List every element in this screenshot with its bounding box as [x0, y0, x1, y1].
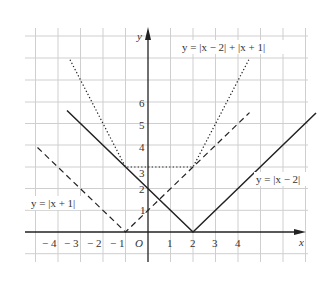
x-tick: 1 [167, 237, 173, 249]
y-tick: 5 [139, 119, 145, 131]
x-tick: 4 [235, 237, 241, 249]
y-tick: 3 [139, 167, 145, 179]
y-tick: 4 [139, 141, 145, 153]
y-tick: 6 [139, 97, 145, 109]
y-axis-arrow-icon [145, 27, 151, 40]
x-tick: 3 [212, 237, 218, 249]
absolute-value-graph: y x O − 4 − 3 − 2 − 1 1 2 3 4 1 2 3 4 5 … [0, 0, 336, 282]
x-tick: − 2 [87, 237, 101, 249]
x-tick: − 4 [42, 237, 57, 249]
x-tick: − 3 [64, 237, 79, 249]
origin-label: O [135, 237, 143, 249]
x-tick: 2 [190, 237, 196, 249]
curve-sum-of-abs [70, 58, 250, 167]
label-abs-x-plus-1: y = |x + 1| [31, 197, 75, 209]
y-tick-labels: 1 2 3 4 5 6 [139, 97, 146, 216]
x-tick: − 1 [110, 237, 124, 249]
grid [25, 28, 308, 262]
x-axis-label: x [298, 236, 304, 248]
curve-abs-x-minus-2 [67, 111, 316, 233]
y-tick: 1 [140, 204, 146, 216]
label-sum-of-abs: y = |x − 2| + |x + 1| [182, 41, 265, 53]
x-axis-arrow-icon [294, 229, 306, 235]
y-axis-label: y [136, 30, 142, 42]
y-tick: 2 [139, 183, 145, 195]
label-abs-x-minus-2: y = |x − 2| [256, 173, 300, 185]
